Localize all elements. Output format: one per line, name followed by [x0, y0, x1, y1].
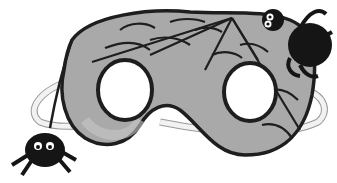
spider-web-mask-image — [0, 0, 337, 183]
spider-bottom-left — [12, 133, 76, 175]
mask-illustration — [0, 0, 337, 183]
